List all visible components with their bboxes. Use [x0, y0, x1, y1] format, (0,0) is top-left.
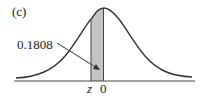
tick-label-z: z — [87, 82, 92, 95]
shaded-area — [91, 8, 103, 81]
area-value-label: 0.1808 — [17, 38, 53, 51]
panel-label: (c) — [12, 5, 26, 18]
normal-distribution-figure: (c) 0.1808 z 0 — [0, 0, 199, 98]
tick-label-zero: 0 — [100, 82, 107, 95]
